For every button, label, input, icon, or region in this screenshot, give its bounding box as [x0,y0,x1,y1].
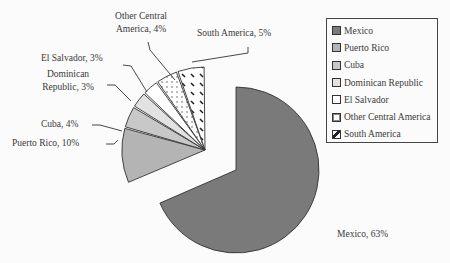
swatch-dominican-republic [332,78,341,87]
legend-item-south-america: South America [332,126,437,143]
swatch-el-salvador [332,95,341,104]
label-dominican-line2: Republic, 3% [38,81,98,94]
legend-item-mexico: Mexico [332,22,437,39]
label-puerto-rico: Puerto Rico, 10% [12,137,79,150]
legend-label: Other Central America [344,112,431,122]
swatch-mexico [332,26,341,35]
legend-label: Cuba [344,60,364,70]
legend-item-other-central-america: Other Central America [332,108,437,125]
label-south-america: South America, 5% [197,27,271,40]
label-other-central-america: Other Central America, 4% [108,10,174,36]
label-cuba: Cuba, 4% [41,118,78,131]
label-other-line1: Other Central [108,10,174,23]
legend-label: El Salvador [344,95,389,105]
legend-label: Mexico [344,26,373,36]
legend-item-puerto-rico: Puerto Rico [332,39,437,56]
swatch-south-america [332,130,341,139]
label-dominican-line1: Dominican [38,68,98,81]
label-other-line2: America, 4% [108,23,174,36]
legend-label: Dominican Republic [344,78,423,88]
chart-legend: Mexico Puerto Rico Cuba Dominican Republ… [326,18,438,143]
swatch-cuba [332,61,341,70]
label-dominican-republic: Dominican Republic, 3% [38,68,98,94]
label-el-salvador: El Salvador, 3% [41,52,103,65]
legend-label: South America [344,129,401,139]
legend-label: Puerto Rico [344,43,389,53]
legend-item-cuba: Cuba [332,57,437,74]
swatch-puerto-rico [332,43,341,52]
legend-item-dominican-republic: Dominican Republic [332,74,437,91]
label-mexico: Mexico, 63% [337,228,388,241]
swatch-other-central-america [332,113,341,122]
legend-item-el-salvador: El Salvador [332,91,437,108]
